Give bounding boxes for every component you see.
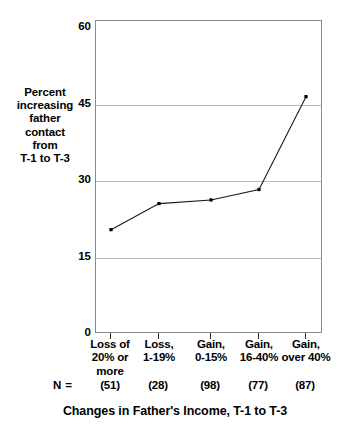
x-category-5-line-2: over 40% [266,351,346,364]
data-series-layer [96,21,323,334]
x-axis-title: Changes in Father's Income, T-1 to T-3 [0,404,350,418]
series-markers [109,95,307,231]
chart-figure: Percent increasing father contact from T… [0,0,350,432]
plot-area [95,20,322,333]
y-tick-label-15: 15 [55,251,91,263]
sample-size-label: N = [53,379,72,391]
data-point-3 [209,198,212,201]
sample-size-value-5: (87) [280,379,330,391]
y-tick-label-30: 30 [55,174,91,186]
sample-size-value-3: (98) [185,379,235,391]
y-tick-label-0: 0 [55,327,91,339]
data-point-4 [257,188,260,191]
x-category-5-line-1: Gain, [266,338,346,351]
x-category-label-5: Gain, over 40% [266,338,346,365]
x-category-1-line-3: more [74,365,146,378]
sample-size-value-1: (51) [85,379,135,391]
sample-size-row: N = (51) (28) (98) (77) (87) [0,379,350,395]
y-tick-label-45: 45 [55,98,91,110]
data-point-5 [304,95,307,98]
y-tick-label-60: 60 [55,21,91,33]
series-line-percent-increasing [111,97,306,230]
sample-size-value-2: (28) [133,379,183,391]
data-point-2 [157,202,160,205]
sample-size-value-4: (77) [233,379,283,391]
x-axis-category-labels: Loss of 20% or more Loss, 1-19% Gain, 0-… [0,338,350,380]
data-point-1 [109,228,112,231]
